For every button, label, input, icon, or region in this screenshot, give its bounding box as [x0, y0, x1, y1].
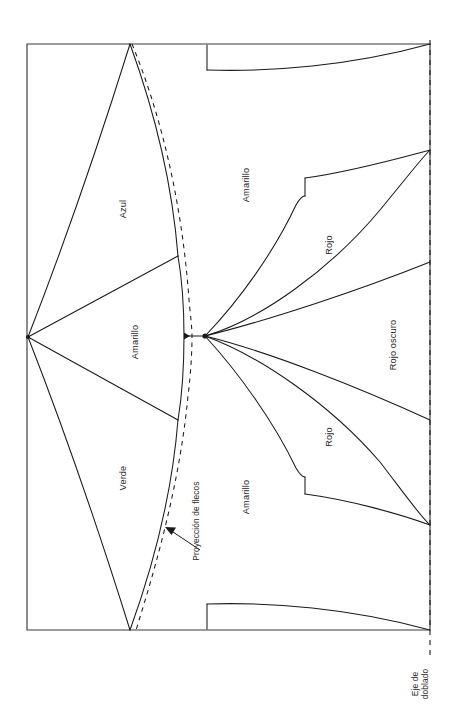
hub-tick-arrowhead: [184, 333, 190, 340]
azul-lower-edge: [28, 256, 178, 337]
fringe-projection-group: [132, 44, 200, 630]
amarillo-left-seam: [178, 256, 184, 420]
label-rojo-lower: Rojo: [324, 427, 334, 447]
label-verde: Verde: [118, 466, 128, 491]
top-notch-group: [207, 44, 430, 70]
amarillo-lower-bottom-curve: [305, 494, 430, 525]
label-eje-de-doblado-line1: Eje de: [410, 672, 420, 697]
amarillo-upper-top-curve: [305, 150, 430, 178]
top-band-curve: [207, 44, 430, 70]
label-amarillo-left: Amarillo: [130, 325, 140, 359]
verde-inner-curve: [130, 420, 178, 630]
rojo-upper-inner-curve: [205, 150, 430, 336]
label-proyeccion-de-flecos: Proyección de flecos: [191, 481, 201, 560]
left-petal-group: [26, 44, 184, 630]
label-azul: Azul: [118, 200, 128, 218]
label-eje-de-doblado-line2: doblado: [420, 669, 430, 700]
label-amarillo-lower-right: Amarillo: [241, 480, 251, 514]
azul-outer-curve: [28, 44, 130, 337]
pattern-frame: [27, 44, 430, 630]
amarillo-lower-outer-curve: [205, 336, 305, 477]
label-rojo-oscuro: Rojo oscuro: [388, 320, 398, 371]
left-hub-point: [26, 335, 30, 339]
fringe-projection-line: [132, 44, 192, 630]
label-rojo-upper: Rojo: [324, 235, 334, 255]
verde-upper-edge: [28, 337, 178, 420]
bottom-notch-group: [207, 604, 430, 630]
azul-inner-curve: [130, 44, 178, 256]
verde-outer-curve: [28, 337, 130, 630]
bottom-band-curve: [207, 604, 430, 630]
label-amarillo-upper-right: Amarillo: [241, 168, 251, 202]
center-hub-point: [202, 333, 207, 338]
fringe-leader-arrowhead: [165, 527, 176, 535]
pattern-diagram: Azul Amarillo Verde Proyección de flecos…: [0, 0, 459, 723]
label-layer: Azul Amarillo Verde Proyección de flecos…: [118, 168, 430, 699]
